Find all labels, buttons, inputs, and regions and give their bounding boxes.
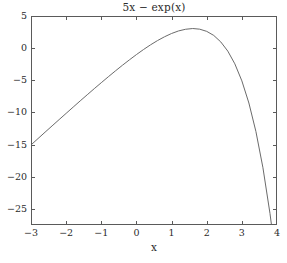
x-axis-label: x: [31, 241, 277, 253]
x-axis-tick-labels: −3−2−101234: [0, 0, 287, 263]
x-tick-label: 1: [157, 228, 187, 238]
x-tick-label: −2: [51, 228, 81, 238]
x-tick-label: 4: [262, 228, 287, 238]
x-tick-label: −3: [16, 228, 46, 238]
x-tick-label: 0: [121, 228, 151, 238]
chart-figure: 5x − exp(x) 50−5−10−15−20−25 −3−2−101234…: [0, 0, 287, 263]
x-tick-label: 3: [227, 228, 257, 238]
x-tick-label: 2: [192, 228, 222, 238]
x-tick-label: −1: [86, 228, 116, 238]
